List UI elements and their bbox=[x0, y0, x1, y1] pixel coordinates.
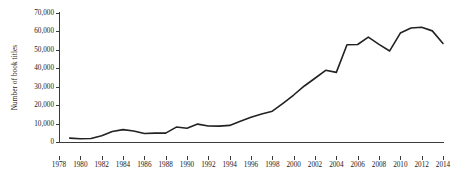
x-tick-mark bbox=[208, 156, 209, 160]
x-tick-label: 2012 bbox=[414, 161, 428, 169]
x-tick-label: 2000 bbox=[286, 161, 300, 169]
x-tick-mark bbox=[358, 156, 359, 160]
x-tick-label: 1998 bbox=[265, 161, 279, 169]
x-tick-mark bbox=[187, 156, 188, 160]
x-tick-mark bbox=[166, 156, 167, 160]
y-tick-label: 60,000 bbox=[34, 27, 54, 35]
y-tick-label: 50,000 bbox=[34, 46, 54, 54]
x-tick-mark bbox=[443, 156, 444, 160]
x-tick-label: 2008 bbox=[372, 161, 386, 169]
y-tick-label: 20,000 bbox=[34, 101, 54, 109]
x-tick-label: 2004 bbox=[329, 161, 343, 169]
y-tick-label: 40,000 bbox=[34, 64, 54, 72]
plot-area: 010,00020,00030,00040,00050,00060,00070,… bbox=[59, 13, 443, 142]
x-tick-label: 1996 bbox=[244, 161, 258, 169]
x-tick-label: 1984 bbox=[116, 161, 130, 169]
data-line bbox=[70, 27, 443, 138]
x-tick-mark bbox=[144, 156, 145, 160]
y-tick-label: 0 bbox=[50, 138, 54, 146]
x-tick-label: 1994 bbox=[222, 161, 236, 169]
x-tick-mark bbox=[59, 156, 60, 160]
x-tick-label: 2002 bbox=[308, 161, 322, 169]
x-tick-mark bbox=[102, 156, 103, 160]
y-tick-mark bbox=[56, 142, 60, 143]
series-line-number-of-book-titles bbox=[59, 13, 443, 142]
x-tick-mark bbox=[123, 156, 124, 160]
x-tick-label: 2006 bbox=[350, 161, 364, 169]
x-tick-label: 2014 bbox=[436, 161, 450, 169]
x-tick-mark bbox=[400, 156, 401, 160]
x-tick-mark bbox=[315, 156, 316, 160]
x-tick-label: 1980 bbox=[73, 161, 87, 169]
x-tick-mark bbox=[272, 156, 273, 160]
y-tick-label: 10,000 bbox=[34, 120, 54, 128]
x-tick-label: 1986 bbox=[137, 161, 151, 169]
x-tick-mark bbox=[422, 156, 423, 160]
x-tick-label: 1982 bbox=[94, 161, 108, 169]
x-tick-label: 1978 bbox=[52, 161, 66, 169]
y-tick-label: 30,000 bbox=[34, 83, 54, 91]
x-tick-mark bbox=[251, 156, 252, 160]
x-tick-label: 2010 bbox=[393, 161, 407, 169]
x-tick-label: 1992 bbox=[201, 161, 215, 169]
y-axis-title: Number of book titles bbox=[8, 13, 22, 142]
x-tick-mark bbox=[294, 156, 295, 160]
x-tick-mark bbox=[336, 156, 337, 160]
x-tick-mark bbox=[379, 156, 380, 160]
x-tick-label: 1988 bbox=[158, 161, 172, 169]
x-axis-line bbox=[59, 142, 444, 143]
x-tick-mark bbox=[230, 156, 231, 160]
x-tick-label: 1990 bbox=[180, 161, 194, 169]
chart-figure: Number of book titles 010,00020,00030,00… bbox=[0, 0, 457, 169]
x-tick-mark bbox=[80, 156, 81, 160]
y-tick-label: 70,000 bbox=[34, 9, 54, 17]
